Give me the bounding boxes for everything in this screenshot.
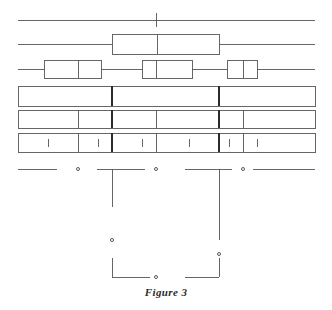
row-2-boxplot-box — [112, 34, 219, 54]
row-3-boxplots-box — [44, 60, 101, 78]
row-7-bracket-tree-node-dot — [155, 168, 158, 171]
row-4-bar-outline — [18, 86, 315, 106]
figure-caption: Figure 3 — [0, 286, 332, 298]
row-7-bracket-tree-node-dot — [111, 239, 114, 242]
row-7-bracket-tree-node-dot — [242, 168, 245, 171]
row-5-bar-outline — [18, 110, 315, 128]
figure-canvas — [0, 0, 332, 310]
row-3-boxplots-box — [142, 60, 192, 78]
row-7-bracket-tree-node-dot — [77, 168, 80, 171]
row-7-bracket-tree-node-dot — [218, 253, 221, 256]
row-3-boxplots-box — [227, 60, 257, 78]
row-6-bar-outline — [18, 133, 315, 152]
figure-3-container: Figure 3 — [0, 0, 332, 310]
row-7-bracket-tree-node-dot — [155, 276, 158, 279]
